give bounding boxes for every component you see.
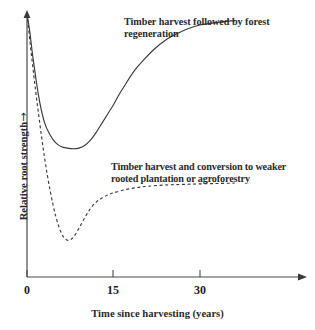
annotation-plantation-line1: Timber harvest and conversion to weaker xyxy=(111,161,286,172)
y-axis-title: Relative root strength→ xyxy=(18,76,31,256)
annotation-forest-line2: regeneration xyxy=(124,28,270,40)
x-tick-label-0: 0 xyxy=(12,283,42,298)
annotation-plantation-agroforestry: Timber harvest and conversion to weaker … xyxy=(111,161,286,185)
x-axis-arrowhead xyxy=(298,273,307,280)
annotation-forest-line1: Timber harvest followed by forest xyxy=(124,16,270,27)
x-tick-label-15: 15 xyxy=(98,283,128,298)
y-axis-arrow-glyph: → xyxy=(17,113,30,122)
annotation-forest-regeneration: Timber harvest followed by forest regene… xyxy=(124,16,270,40)
annotation-plantation-line2: rooted plantation or agroforestry xyxy=(111,173,286,185)
y-axis-title-text: Relative root strength xyxy=(18,122,29,220)
x-axis-title: Time since harvesting (years) xyxy=(0,308,315,321)
x-tick-label-30: 30 xyxy=(185,283,215,298)
series-line-plantation-agroforestry xyxy=(27,14,235,240)
chart-figure: Timber harvest followed by forest regene… xyxy=(0,0,315,330)
